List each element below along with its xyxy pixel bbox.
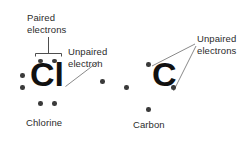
annotation-unpaired-electron-line2: electron [68, 58, 107, 70]
annotation-paired-electrons: Paired electrons [27, 12, 66, 35]
chlorine-electron-dot-left-upper [20, 73, 25, 78]
lewis-structure-diagram: Paired electrons Unpaired electron Unpai… [0, 0, 250, 142]
chlorine-electron-dot-right-unpaired [100, 79, 105, 84]
chlorine-electron-dot-left-lower [20, 85, 25, 90]
carbon-electron-dot-top [146, 62, 151, 67]
carbon-electron-dot-left [124, 85, 129, 90]
annotation-unpaired-electron-line1: Unpaired [68, 46, 107, 58]
annotation-unpaired-electrons: Unpaired electrons [197, 33, 236, 56]
carbon-electron-dot-right [171, 85, 176, 90]
chlorine-electron-dot-top-right [52, 59, 57, 64]
atom-symbol-chlorine: Cl [30, 57, 64, 91]
annotation-paired-electrons-line1: Paired [27, 12, 66, 24]
annotation-unpaired-electrons-line2: electrons [197, 45, 236, 57]
annotation-paired-electrons-line2: electrons [27, 24, 66, 36]
chlorine-electron-dot-top-left [38, 59, 43, 64]
caption-carbon: Carbon [133, 119, 165, 130]
chlorine-electron-dot-bottom-right [52, 101, 57, 106]
chlorine-electron-dot-bottom-left [38, 101, 43, 106]
caption-chlorine: Chlorine [26, 117, 62, 128]
carbon-unpaired-electrons-leader-right [174, 46, 197, 91]
annotation-unpaired-electron: Unpaired electron [68, 46, 107, 69]
annotation-unpaired-electrons-line1: Unpaired [197, 33, 236, 45]
carbon-electron-dot-bottom [146, 107, 151, 112]
